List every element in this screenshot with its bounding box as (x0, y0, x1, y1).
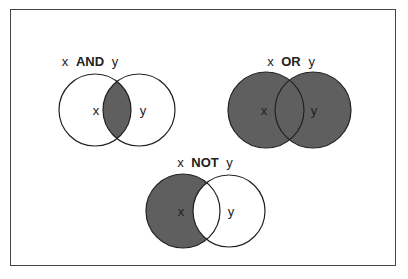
venn-and: x AND y x y (59, 54, 175, 146)
not-label-y: y (228, 204, 235, 219)
not-title: x NOT y (177, 155, 233, 170)
or-label-x: x (261, 103, 268, 118)
or-label-y: y (311, 103, 318, 118)
or-title: x OR y (267, 54, 315, 69)
venn-not: x NOT y x y (146, 155, 265, 248)
venn-diagrams: x AND y x y x OR y x y x NOT y x (0, 0, 408, 279)
and-title: x AND y (62, 54, 119, 69)
venn-or: x OR y x y (228, 54, 351, 148)
and-label-x: x (93, 103, 100, 118)
and-label-y: y (140, 103, 147, 118)
not-label-x: x (178, 204, 185, 219)
